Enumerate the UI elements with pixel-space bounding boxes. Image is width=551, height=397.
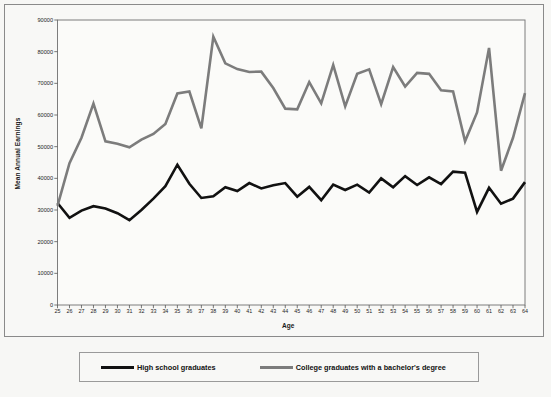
x-tick-label: 36 bbox=[186, 308, 192, 314]
x-tick-label: 60 bbox=[474, 308, 480, 314]
legend-swatch-line bbox=[260, 366, 293, 369]
x-tick-label: 34 bbox=[162, 308, 168, 314]
x-tick-label: 58 bbox=[450, 308, 456, 314]
x-tick-label: 55 bbox=[414, 308, 420, 314]
x-tick-label: 25 bbox=[55, 308, 61, 314]
legend-item-college: College graduates with a bachelor's degr… bbox=[260, 363, 446, 372]
x-tick-label: 64 bbox=[522, 308, 528, 314]
x-tick-label: 37 bbox=[198, 308, 204, 314]
x-tick-label: 52 bbox=[378, 308, 384, 314]
x-tick-label: 47 bbox=[318, 308, 324, 314]
x-tick-label: 44 bbox=[282, 308, 288, 314]
x-tick-label: 56 bbox=[426, 308, 432, 314]
legend-label-text: College graduates with a bachelor's degr… bbox=[296, 363, 446, 372]
x-tick-label: 38 bbox=[210, 308, 216, 314]
legend-swatch-line bbox=[101, 366, 134, 369]
x-tick-label: 29 bbox=[102, 308, 108, 314]
x-tick-label: 57 bbox=[438, 308, 444, 314]
x-tick-label: 63 bbox=[510, 308, 516, 314]
x-axis-tick-labels: 2526272829303132333435363738394041424344… bbox=[0, 0, 551, 397]
chart-legend: High school graduates College graduates … bbox=[79, 352, 479, 382]
x-tick-label: 53 bbox=[390, 308, 396, 314]
legend-item-high-school: High school graduates bbox=[101, 363, 216, 372]
x-tick-label: 61 bbox=[486, 308, 492, 314]
x-tick-label: 49 bbox=[342, 308, 348, 314]
y-axis-title: Mean Annual Earnings bbox=[14, 99, 21, 209]
x-tick-label: 43 bbox=[270, 308, 276, 314]
x-tick-label: 51 bbox=[366, 308, 372, 314]
x-tick-label: 27 bbox=[78, 308, 84, 314]
x-tick-label: 46 bbox=[306, 308, 312, 314]
x-axis-title: Age bbox=[282, 322, 294, 329]
legend-label-text: High school graduates bbox=[137, 363, 216, 372]
x-tick-label: 33 bbox=[150, 308, 156, 314]
x-tick-label: 26 bbox=[66, 308, 72, 314]
x-tick-label: 62 bbox=[498, 308, 504, 314]
x-tick-label: 40 bbox=[234, 308, 240, 314]
x-tick-label: 32 bbox=[138, 308, 144, 314]
x-tick-label: 50 bbox=[354, 308, 360, 314]
x-tick-label: 35 bbox=[174, 308, 180, 314]
x-tick-label: 45 bbox=[294, 308, 300, 314]
x-tick-label: 42 bbox=[258, 308, 264, 314]
x-tick-label: 30 bbox=[114, 308, 120, 314]
x-tick-label: 54 bbox=[402, 308, 408, 314]
x-tick-label: 59 bbox=[462, 308, 468, 314]
x-tick-label: 39 bbox=[222, 308, 228, 314]
x-tick-label: 41 bbox=[246, 308, 252, 314]
x-tick-label: 48 bbox=[330, 308, 336, 314]
x-tick-label: 28 bbox=[90, 308, 96, 314]
x-tick-label: 31 bbox=[126, 308, 132, 314]
